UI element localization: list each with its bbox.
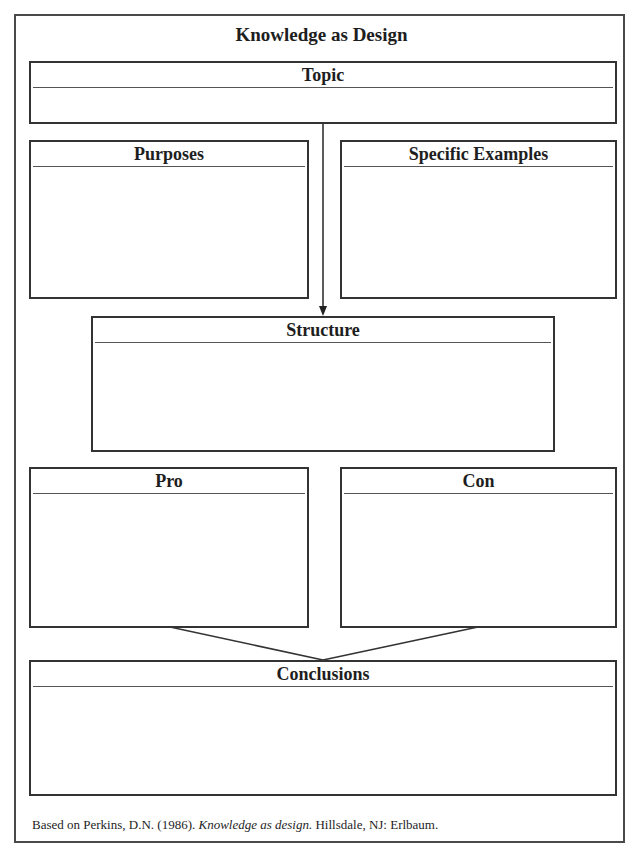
- conclusions-field[interactable]: [31, 688, 615, 794]
- citation-book-title: Knowledge as design.: [198, 817, 312, 832]
- con-to-conclusions-line: [323, 627, 478, 660]
- pro-field[interactable]: [31, 495, 307, 626]
- purposes-box: Purposes: [29, 140, 309, 299]
- conclusions-header: Conclusions: [33, 662, 613, 687]
- structure-field[interactable]: [93, 344, 553, 450]
- conclusions-box: Conclusions: [29, 660, 617, 796]
- topic-box: Topic: [29, 61, 617, 124]
- specific-examples-field[interactable]: [342, 168, 615, 297]
- structure-box: Structure: [91, 316, 555, 452]
- purposes-field[interactable]: [31, 168, 307, 297]
- con-field[interactable]: [342, 495, 615, 626]
- con-box: Con: [340, 467, 617, 628]
- specific-examples-header: Specific Examples: [344, 142, 613, 167]
- topic-header: Topic: [33, 63, 613, 88]
- arrowhead-down-icon: [319, 306, 327, 316]
- purposes-header: Purposes: [33, 142, 305, 167]
- con-header: Con: [344, 469, 613, 494]
- structure-header: Structure: [95, 318, 551, 343]
- pro-box: Pro: [29, 467, 309, 628]
- pro-header: Pro: [33, 469, 305, 494]
- topic-field[interactable]: [31, 89, 615, 122]
- citation-prefix: Based on Perkins, D.N. (1986).: [32, 817, 198, 832]
- pro-to-conclusions-line: [170, 627, 323, 660]
- citation-suffix: Hillsdale, NJ: Erlbaum.: [312, 817, 438, 832]
- citation: Based on Perkins, D.N. (1986). Knowledge…: [32, 817, 438, 833]
- specific-examples-box: Specific Examples: [340, 140, 617, 299]
